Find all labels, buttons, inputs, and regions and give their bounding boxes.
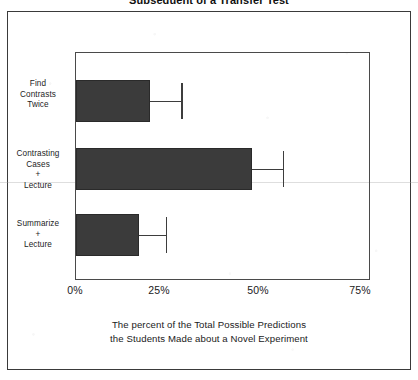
cat-line: Cases: [2, 160, 74, 171]
cat-line: Lecture: [2, 240, 74, 251]
category-label-summarize-lecture: Summarize + Lecture: [2, 219, 74, 251]
xtick-label-75: 75%: [342, 284, 378, 296]
cat-line: Twice: [2, 100, 74, 111]
figure-caption: The percent of the Total Possible Predic…: [0, 318, 418, 345]
cat-line: Summarize: [2, 219, 74, 230]
cat-line: Contrasts: [2, 90, 74, 101]
cat-line: +: [2, 230, 74, 241]
bar-2: [76, 214, 139, 256]
error-bar-line-2: [139, 235, 166, 236]
cat-line: Contrasting: [2, 149, 74, 160]
error-bar-line-1: [252, 169, 283, 170]
error-bar-cap-0: [181, 83, 182, 119]
xtick-label-0: 0%: [57, 284, 93, 296]
caption-line-2: the Students Made about a Novel Experime…: [0, 332, 418, 346]
error-bar-cap-1: [283, 151, 284, 187]
bar-1: [76, 148, 252, 190]
error-bar-cap-2: [166, 217, 167, 253]
xtick-label-25: 25%: [141, 284, 177, 296]
plot-area: [75, 52, 370, 280]
category-label-find-contrasts-twice: Find Contrasts Twice: [2, 79, 74, 111]
caption-line-1: The percent of the Total Possible Predic…: [0, 318, 418, 332]
error-bar-line-0: [150, 101, 181, 102]
cat-line: Find: [2, 79, 74, 90]
category-label-contrasting-cases-lecture: Contrasting Cases + Lecture: [2, 149, 74, 191]
cat-line: +: [2, 170, 74, 181]
xtick-label-50: 50%: [240, 284, 276, 296]
cat-line: Lecture: [2, 181, 74, 192]
bar-0: [76, 80, 150, 122]
figure-title: Subsequent of a Transfer Test: [0, 0, 418, 4]
